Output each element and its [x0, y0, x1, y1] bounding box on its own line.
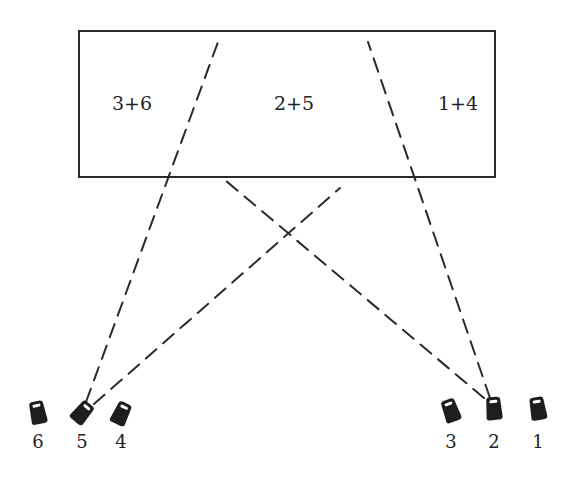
region-label: 1+4 — [438, 92, 478, 114]
region-label: 2+5 — [274, 92, 314, 114]
camera-label: 6 — [32, 431, 43, 452]
camera-2: 2 — [485, 396, 503, 452]
camera-label: 3 — [445, 431, 456, 452]
sight-line-camera-5 — [94, 188, 340, 404]
camera-label: 4 — [115, 431, 126, 452]
camera-coverage-diagram: 3+62+51+4 654321 — [0, 0, 580, 478]
camera-icon — [439, 397, 462, 424]
camera-label: 1 — [532, 431, 543, 452]
camera-1: 1 — [528, 396, 548, 452]
camera-label: 2 — [488, 431, 499, 452]
region-label: 3+6 — [112, 92, 152, 114]
camera-3: 3 — [439, 397, 462, 452]
camera-icon — [528, 396, 548, 421]
camera-5: 5 — [69, 399, 96, 452]
camera-4: 4 — [109, 400, 133, 452]
camera-icon — [485, 396, 503, 420]
camera-icon — [69, 399, 96, 427]
camera-6: 6 — [27, 400, 48, 452]
sight-line-camera-2 — [225, 180, 484, 398]
camera-icon — [109, 400, 133, 428]
cameras: 654321 — [27, 396, 547, 452]
camera-icon — [27, 400, 48, 426]
camera-label: 5 — [76, 431, 87, 452]
